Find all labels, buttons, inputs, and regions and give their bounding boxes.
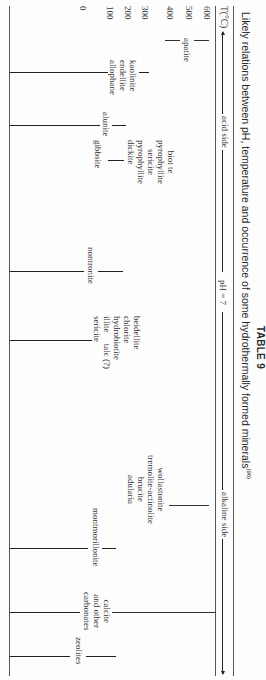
mineral-adularia: adularia bbox=[126, 455, 136, 524]
zeolites-range-top bbox=[86, 656, 116, 657]
caption-reference: (96) bbox=[246, 468, 252, 479]
temp-500: 500 bbox=[184, 6, 194, 20]
mineral-dickite: dickite bbox=[126, 140, 136, 184]
mineral-chlorite: chlorite bbox=[122, 316, 132, 369]
mineral-kaolinite: kaolinite bbox=[128, 60, 138, 95]
mineral-beidellite: beidellite bbox=[132, 316, 142, 369]
nontronite-range-bottom bbox=[10, 271, 84, 272]
temp-100: 100 bbox=[105, 6, 115, 20]
kaolin-range-top bbox=[139, 72, 149, 73]
top-rule bbox=[233, 6, 234, 676]
apatite-label: apatite bbox=[180, 37, 194, 63]
montmorillonite-range-bottom bbox=[10, 548, 88, 549]
mineral-tremolite-actinolite: tremolite-actinolite bbox=[146, 455, 156, 524]
alunite-range-top bbox=[112, 125, 126, 126]
mineral-calcite: calcite bbox=[102, 592, 112, 630]
mineral-sericite-2: sericite bbox=[92, 316, 102, 369]
carbonates-group-label: calcite and other carbonates bbox=[82, 592, 112, 630]
mineral-other: and other bbox=[92, 592, 102, 630]
zeolites-range-bottom bbox=[10, 656, 70, 657]
kaolin-range-bottom bbox=[10, 72, 108, 73]
mineral-brucite: brucite bbox=[136, 455, 146, 524]
nontronite-range-top bbox=[98, 271, 123, 272]
nontronite-label: nontronite bbox=[86, 247, 96, 284]
bottom-rule bbox=[9, 6, 10, 676]
mineral-biotite: biot te bbox=[166, 140, 176, 184]
mineral-illite-talc: illite talc (?) bbox=[102, 316, 112, 369]
mineral-pyrophyllite: pyrophyllite bbox=[156, 140, 166, 184]
header-rule bbox=[215, 6, 216, 676]
mineral-hydrobiotite: hydrobiotite bbox=[112, 316, 122, 369]
alkaline-side-label: alkaline side bbox=[220, 490, 230, 539]
pyrophyllite-dickite-label: pyrophyllite dickite bbox=[126, 140, 146, 184]
gibbsite-label: gibbsite bbox=[93, 140, 103, 169]
alunite-label: alunite bbox=[101, 112, 111, 137]
temp-300: 300 bbox=[140, 6, 150, 20]
kaolin-group-label: kaolinite endellite allophane bbox=[108, 60, 138, 95]
beidellite-group-label: beidellite chlorite hydrobiotite illite … bbox=[92, 314, 142, 371]
dickite-range bbox=[108, 160, 124, 161]
temperature-axis-label: T(°C) bbox=[219, 6, 229, 28]
caption-text: Likely relations between pH, temperature… bbox=[240, 12, 252, 468]
temp-200: 200 bbox=[123, 6, 133, 20]
alunite-range-bottom bbox=[10, 125, 100, 126]
table-number: TABLE 9 bbox=[255, 326, 266, 369]
mineral-carbonates: carbonates bbox=[82, 592, 92, 630]
acid-arrow bbox=[222, 32, 223, 272]
temp-400: 400 bbox=[165, 6, 175, 20]
temp-600: 600 bbox=[202, 6, 212, 20]
table-caption: Likely relations between pH, temperature… bbox=[240, 12, 252, 479]
mineral-endellite: endellite bbox=[118, 60, 128, 95]
montmorillonite-range-top bbox=[102, 548, 116, 549]
acid-side-label: acid side bbox=[220, 114, 230, 150]
mineral-pyrophyllite-2: pyrophyllite bbox=[136, 140, 146, 184]
montmorillonite-label: montmorillonite bbox=[91, 508, 101, 567]
mineral-sericite: sericite bbox=[146, 140, 156, 184]
wollastonite-group-label: wollastonite tremolite-actinolite brucit… bbox=[126, 455, 166, 524]
zeolites-label: zeolites bbox=[74, 637, 84, 665]
wollastonite-range bbox=[169, 505, 209, 506]
temp-0: 0 bbox=[78, 6, 88, 11]
ph-neutral-label: pH = 7 bbox=[218, 277, 228, 308]
mineral-wollastonite: wollastonite bbox=[156, 455, 166, 524]
table-page: TABLE 9 Likely relations between pH, tem… bbox=[0, 0, 266, 680]
mineral-allophane: allophane bbox=[108, 60, 118, 95]
carbonates-range-bottom bbox=[10, 612, 80, 613]
biotite-group-label: biot te pyrophyllite sericite bbox=[146, 140, 176, 184]
